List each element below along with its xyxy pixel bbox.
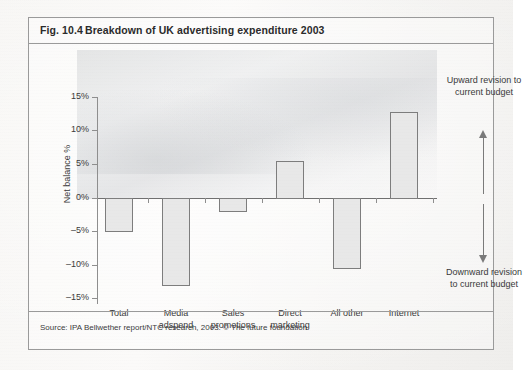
figure-number: Fig. 10.4 xyxy=(40,24,83,36)
bar-all-other xyxy=(333,198,361,269)
chart-plot-area: 15% 10% 5% 0% –5% –10% –15% Net balance … xyxy=(29,44,493,311)
y-tick-label: –15% xyxy=(53,292,89,302)
bar-direct-marketing xyxy=(276,161,304,199)
y-tick-mark xyxy=(92,231,98,232)
y-tick-mark xyxy=(92,130,98,131)
figure-title-bar: Fig. 10.4 Breakdown of UK advertising ex… xyxy=(29,18,493,44)
bar-sales-promotions xyxy=(219,198,247,212)
figure-title: Breakdown of UK advertising expenditure … xyxy=(85,24,325,36)
x-label-line1: Internet xyxy=(367,308,441,320)
y-tick-label: –10% xyxy=(53,259,89,269)
arrow-down-shaft xyxy=(483,204,484,261)
source-divider xyxy=(29,311,493,312)
y-tick-mark xyxy=(92,198,98,199)
bar-total xyxy=(105,198,133,232)
plot-background-shading-secondary xyxy=(77,78,437,174)
y-tick-label: –5% xyxy=(53,225,89,235)
arrow-down-icon xyxy=(479,255,487,263)
y-tick-mark xyxy=(92,97,98,98)
x-axis-tick xyxy=(205,198,206,203)
upward-revision-annotation: Upward revision to current budget xyxy=(441,74,527,98)
x-axis-tick xyxy=(433,198,434,203)
plot-background-shading xyxy=(77,50,437,199)
x-axis-tick xyxy=(319,198,320,203)
y-tick-label: 15% xyxy=(53,91,89,101)
x-axis-tick xyxy=(376,198,377,203)
y-tick-mark xyxy=(92,265,98,266)
y-axis-title: Net balance % xyxy=(62,124,72,224)
arrow-up-shaft xyxy=(483,137,484,194)
downward-revision-annotation: Downward revision to current budget xyxy=(441,266,527,290)
bar-internet xyxy=(390,112,418,199)
x-axis-tick xyxy=(148,198,149,203)
figure-frame: Fig. 10.4 Breakdown of UK advertising ex… xyxy=(28,17,494,350)
figure-source: Source: IPA Bellwether report/NTC resear… xyxy=(40,323,307,332)
y-tick-mark xyxy=(92,298,98,299)
y-tick-mark xyxy=(92,164,98,165)
x-axis-tick xyxy=(262,198,263,203)
y-axis-line xyxy=(97,97,98,304)
bar-media-adspend xyxy=(162,198,190,286)
x-label-internet: Internet xyxy=(367,308,441,320)
